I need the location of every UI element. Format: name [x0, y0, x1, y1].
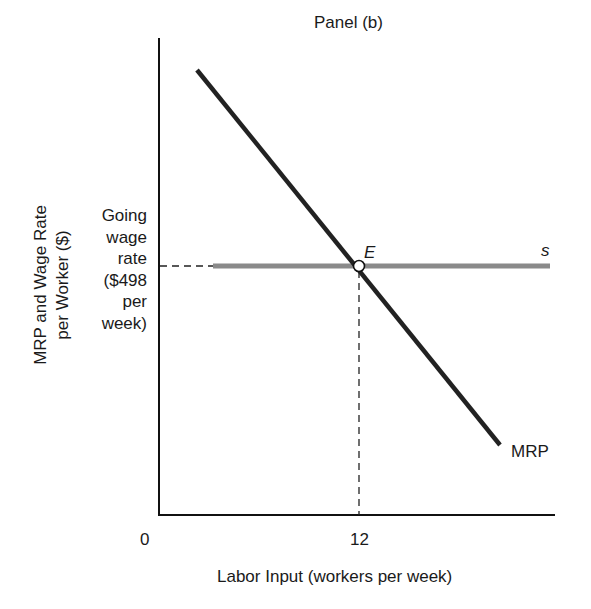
wage-note-line: rate: [102, 248, 147, 270]
wage-note-line: week): [102, 313, 147, 335]
equilibrium-label: E: [364, 244, 375, 261]
chart-canvas: [0, 0, 591, 609]
going-wage-rate-note: Going wage rate ($498 per week): [102, 205, 147, 334]
wage-note-line: ($498: [102, 270, 147, 292]
y-axis-label-line1: MRP and Wage Rate: [30, 205, 52, 365]
y-axis-label-line2: per Worker ($): [52, 205, 74, 365]
panel-title: Panel (b): [314, 14, 383, 31]
y-axis-label: MRP and Wage Rate per Worker ($): [30, 205, 74, 365]
wage-note-line: Going: [102, 205, 147, 227]
x-origin-tick-label: 0: [140, 531, 149, 548]
mrp-line: [197, 70, 500, 445]
supply-label: s: [541, 242, 550, 259]
x-axis-label: Labor Input (workers per week): [217, 568, 452, 585]
wage-note-line: per: [102, 291, 147, 313]
mrp-label: MRP: [511, 443, 549, 460]
x-tick-label-12: 12: [350, 531, 369, 548]
wage-note-line: wage: [102, 227, 147, 249]
equilibrium-point-marker: [354, 261, 365, 272]
